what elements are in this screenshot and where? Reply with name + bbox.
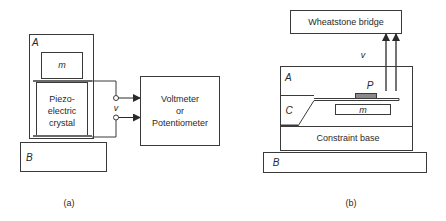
strain-gauge-p bbox=[356, 94, 377, 99]
base-b-b bbox=[264, 153, 427, 173]
meter-label-1: Voltmeter bbox=[161, 94, 199, 104]
panel-b bbox=[264, 11, 427, 173]
meter-label-3: Potentiometer bbox=[152, 118, 208, 128]
crystal-label-2: electric bbox=[48, 106, 77, 116]
constraint-base-label: Constraint base bbox=[316, 133, 379, 143]
crystal-bottom-plate bbox=[33, 135, 92, 137]
panel-a-labels: A m Piezo- electric crystal v Voltmeter … bbox=[26, 37, 208, 208]
terminal-bottom bbox=[114, 115, 119, 120]
wheatstone-bridge-label: Wheatstone bridge bbox=[308, 17, 384, 27]
mass-label: m bbox=[58, 60, 66, 70]
wire-top bbox=[92, 81, 116, 95]
cantilever-c-label: C bbox=[285, 105, 293, 116]
caption-a: (a) bbox=[64, 198, 75, 208]
housing-a-label: A bbox=[31, 37, 39, 48]
crystal-label-1: Piezo- bbox=[49, 94, 75, 104]
crystal-label-3: crystal bbox=[49, 118, 75, 128]
voltage-label-b: v bbox=[361, 50, 366, 60]
base-b-label-b: B bbox=[273, 157, 280, 168]
meter-label-2: or bbox=[176, 106, 184, 116]
base-b-label-a: B bbox=[26, 152, 33, 163]
cantilever-c bbox=[298, 99, 399, 127]
accelerometer-diagram: A m Piezo- electric crystal v Voltmeter … bbox=[0, 0, 446, 221]
mass-b-label: m bbox=[359, 105, 367, 115]
base-b-a bbox=[21, 143, 107, 172]
caption-b: (b) bbox=[346, 198, 357, 208]
crystal-top-plate bbox=[33, 80, 92, 82]
gauge-p-label: P bbox=[367, 80, 374, 91]
voltage-label-a: v bbox=[114, 103, 119, 113]
wire-bottom bbox=[92, 120, 116, 137]
panel-b-labels: Wheatstone bridge v A P C m Constraint b… bbox=[273, 17, 384, 208]
terminal-top bbox=[114, 96, 119, 101]
housing-b-label: A bbox=[284, 72, 292, 83]
